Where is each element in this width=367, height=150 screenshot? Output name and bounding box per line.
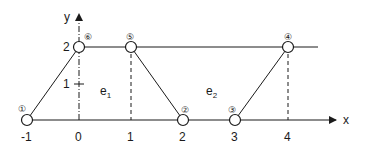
x-tick-label: 1 (127, 130, 134, 144)
x-tick-label: 4 (284, 130, 291, 144)
node-label-4: ④ (284, 32, 292, 42)
x-tick-label: -1 (21, 130, 32, 144)
edge-5-2 (131, 47, 183, 120)
node-label-3: ③ (228, 105, 236, 115)
node-5 (126, 42, 137, 53)
node-label-6: ⑥ (84, 32, 92, 42)
node-3 (230, 115, 241, 126)
x-axis-label: x (343, 113, 349, 127)
y-tick-label-2: 2 (63, 40, 70, 54)
element-label-e2: e2 (206, 84, 218, 100)
node-label-1: ① (18, 104, 26, 114)
node-1 (22, 115, 33, 126)
x-tick-label: 3 (231, 130, 238, 144)
node-4 (283, 42, 294, 53)
y-tick-label-1: 1 (63, 77, 70, 91)
x-tick-label: 0 (75, 130, 82, 144)
edge-1-6 (27, 47, 79, 120)
fem-diagram: x y 1 2 -1 0 1 2 3 4 e1 e2 ① ② ③ ④ ⑤ ⑥ (0, 0, 367, 150)
node-6 (74, 42, 85, 53)
element-label-e1: e1 (100, 84, 112, 100)
edge-3-4 (235, 47, 288, 120)
y-axis-label: y (64, 10, 70, 24)
node-2 (178, 115, 189, 126)
node-label-5: ⑤ (126, 32, 134, 42)
x-tick-label: 2 (179, 130, 186, 144)
node-label-2: ② (181, 105, 189, 115)
